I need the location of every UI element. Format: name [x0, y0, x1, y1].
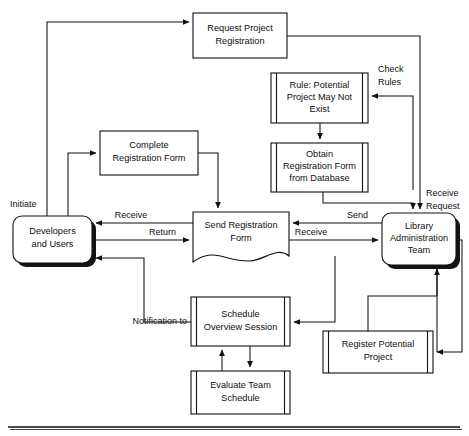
node-label-library-administration-team-line3: Team — [408, 245, 431, 255]
node-label-obtain-registration-form-line2: Registration Form — [283, 161, 356, 171]
edge-library-team-to-schedule-session — [294, 256, 335, 322]
edge-label-initiate: Initiate — [10, 199, 37, 209]
node-label-library-administration-team-line2: Administration — [390, 233, 448, 243]
node-label-rule-potential-project-line2: Project May Not — [287, 92, 353, 102]
node-label-complete-registration-form-line2: Registration Form — [112, 153, 185, 163]
node-label-evaluate-team-schedule-line2: Schedule — [221, 393, 259, 403]
node-label-register-potential-project-line1: Register Potential — [342, 339, 415, 349]
node-label-evaluate-team-schedule-line1: Evaluate Team — [210, 380, 271, 390]
edge-label-check-rules-line1: Check — [378, 64, 404, 74]
workflow-diagram-svg: Request Project Registration Rule: Poten… — [0, 0, 469, 436]
node-register-potential-project[interactable]: Register Potential Project — [323, 331, 433, 373]
bottom-divider — [8, 427, 462, 430]
node-label-register-potential-project-line2: Project — [364, 352, 393, 362]
edge-register-project-to-library-team — [368, 296, 437, 331]
edge-complete-form-to-send-form — [198, 153, 218, 208]
node-label-library-administration-team-line1: Library — [405, 221, 433, 231]
node-label-send-registration-form-line1: Send Registration — [204, 220, 277, 230]
edge-label-receive-request-line2: Request — [426, 201, 460, 211]
node-obtain-registration-form[interactable]: Obtain Registration Form from Database — [271, 143, 368, 192]
node-request-project-registration[interactable]: Request Project Registration — [193, 13, 287, 58]
node-label-obtain-registration-form-line3: from Database — [289, 173, 349, 183]
node-schedule-overview-session[interactable]: Schedule Overview Session — [191, 297, 290, 346]
edge-label-check-rules-line2: Rules — [378, 77, 402, 87]
diagram-canvas: Request Project Registration Rule: Poten… — [0, 0, 469, 436]
node-library-administration-team[interactable]: Library Administration Team — [382, 213, 460, 269]
edge-label-receive-left: Receive — [115, 210, 148, 220]
node-label-request-project-registration-line1: Request Project — [207, 23, 273, 33]
edge-label-receive-request-line1: Receive — [426, 188, 459, 198]
node-developers-and-users[interactable]: Developers and Users — [13, 216, 96, 267]
node-label-schedule-overview-session-line2: Overview Session — [204, 322, 278, 332]
node-complete-registration-form[interactable]: Complete Registration Form — [100, 131, 198, 175]
edge-label-return: Return — [149, 227, 176, 237]
node-label-developers-and-users-line2: and Users — [32, 239, 74, 249]
edge-developers-to-complete-form — [68, 153, 96, 216]
edge-label-receive-right: Receive — [295, 227, 328, 237]
edge-label-notification-to: Notification to — [132, 316, 187, 326]
edge-check-rules-to-rule-box — [372, 96, 413, 190]
edge-label-send-right: Send — [347, 210, 368, 220]
node-label-request-project-registration-line2: Registration — [215, 36, 264, 46]
edge-obtain-form-to-library-team — [323, 192, 413, 209]
node-send-registration-form[interactable]: Send Registration Form — [193, 212, 289, 262]
node-label-obtain-registration-form-line1: Obtain — [306, 149, 333, 159]
node-label-schedule-overview-session-line1: Schedule — [221, 309, 259, 319]
node-label-rule-potential-project-line3: Exist — [310, 104, 330, 114]
node-label-rule-potential-project-line1: Rule: Potential — [290, 80, 350, 90]
node-rule-potential-project[interactable]: Rule: Potential Project May Not Exist — [271, 73, 368, 123]
edge-label-layer: Initiate Check Rules Receive Request Rec… — [10, 64, 460, 326]
edge-schedule-session-notification-to-developers — [96, 258, 191, 322]
node-label-developers-and-users-line1: Developers — [29, 226, 76, 236]
node-evaluate-team-schedule[interactable]: Evaluate Team Schedule — [191, 371, 290, 414]
node-label-complete-registration-form-line1: Complete — [129, 140, 168, 150]
node-label-send-registration-form-line2: Form — [230, 233, 252, 243]
